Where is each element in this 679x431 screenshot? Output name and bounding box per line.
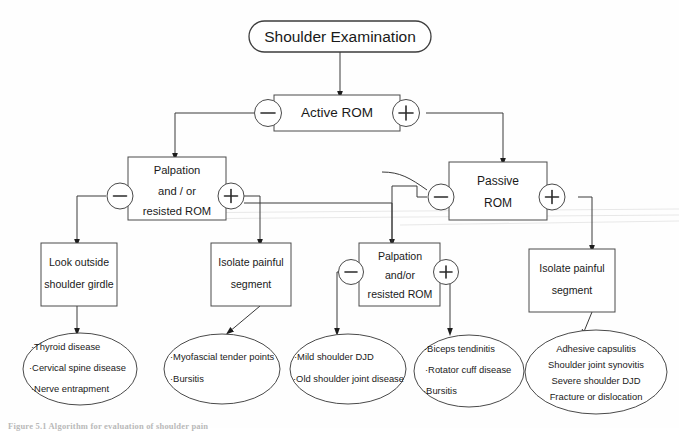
root-node-label: Shoulder Examination [264,28,416,45]
mild-djd-ellipse-shape [290,334,406,404]
thyroid-item-3: ·Nerve entrapment [31,383,110,394]
palpation-right-line-1: Palpation [378,250,422,262]
node-palpation-right[interactable]: Palpation and/or resisted ROM [359,243,440,306]
thyroid-item-1: ·Thyroid disease [31,341,100,352]
isolate-left-line-2: segment [231,278,272,290]
operator-active-minus[interactable] [255,100,282,127]
myofascial-ellipse-shape [164,334,280,404]
passive-rom-shape [449,162,547,220]
connector-palpleft-minus-to-look-outside [77,196,106,243]
adhesive-item-2: Shoulder joint synovitis [548,359,644,370]
outcome-adhesive-group[interactable]: Adhesive capsulitis Shoulder joint synov… [525,330,667,414]
look-outside-line-1: Look outside [49,256,109,268]
biceps-item-3: ·Bursitis [423,385,457,396]
operator-palpation-right-plus[interactable] [434,260,459,285]
mild-djd-item-1: ·Mild shoulder DJD [294,351,374,362]
look-outside-shape [41,243,117,306]
outcome-myofascial-group[interactable]: ·Myofascial tender points ·Bursitis [164,334,280,404]
node-passive-rom[interactable]: Passive ROM [449,162,547,220]
passive-rom-line-2: ROM [484,196,512,210]
connector-isolate-left-to-myofascial [229,306,260,332]
outcome-biceps-group[interactable]: ·Biceps tendinitis ·Rotator cuff disease… [414,335,524,407]
node-active-rom[interactable]: Active ROM [274,95,400,131]
biceps-item-1: ·Biceps tendinitis [424,343,495,354]
adhesive-item-1: Adhesive capsulitis [556,343,636,354]
operator-active-plus[interactable] [393,100,420,127]
adhesive-item-4: Fracture or dislocation [550,391,643,402]
operator-palpation-left-plus[interactable] [218,183,244,209]
connector-passive-minus-left [392,186,427,197]
outcome-mild-djd-group[interactable]: ·Mild shoulder DJD ·Old shoulder joint d… [290,334,406,404]
operator-passive-minus[interactable] [428,184,454,210]
mild-djd-item-2: ·Old shoulder joint disease [293,373,404,384]
palpation-left-line-2: and / or [158,185,196,197]
isolate-left-line-1: Isolate painful [218,256,283,268]
figure-caption: Figure 5.1 Algorithm for evaluation of s… [8,421,208,431]
myofascial-item-1: ·Myofascial tender points [170,351,275,362]
adhesive-item-3: Severe shoulder DJD [551,375,640,386]
connector-palpleft-plus-to-palpation-right [244,203,392,243]
passive-rom-line-1: Passive [477,174,519,188]
node-look-outside[interactable]: Look outside shoulder girdle [41,243,117,306]
node-isolate-right[interactable]: Isolate painful segment [529,249,615,312]
palpation-right-line-3: resisted ROM [368,288,433,300]
connector-active-plus-to-passive [426,113,503,162]
palpation-left-line-1: Palpation [154,164,201,176]
palpation-right-line-2: and/or [385,269,416,281]
palpation-left-line-3: resisted ROM [143,205,211,217]
connector-active-minus-to-palpation-left [175,113,254,157]
operator-palpation-right-minus[interactable] [339,260,364,285]
look-outside-line-2: shoulder girdle [44,278,114,290]
operator-passive-plus[interactable] [539,184,565,210]
isolate-right-line-2: segment [552,284,593,296]
connector-passive-plus-to-isolate-right [578,197,592,249]
myofascial-item-2: ·Bursitis [170,373,204,384]
outcome-thyroid-group[interactable]: ·Thyroid disease ·Cervical spine disease… [23,333,137,405]
node-palpation-left[interactable]: Palpation and / or resisted ROM [128,157,226,220]
operator-palpation-left-minus[interactable] [107,183,133,209]
isolate-right-line-1: Isolate painful [539,262,604,274]
isolate-left-shape [211,243,291,306]
active-rom-label: Active ROM [301,105,373,120]
connector-passive-curve [382,172,427,190]
node-shoulder-examination[interactable]: Shoulder Examination [249,21,431,52]
node-isolate-left[interactable]: Isolate painful segment [211,243,291,306]
scan-artifact-lines [160,209,679,225]
thyroid-item-2: ·Cervical spine disease [29,362,126,373]
isolate-right-shape [529,249,615,312]
biceps-item-2: ·Rotator cuff disease [425,364,511,375]
